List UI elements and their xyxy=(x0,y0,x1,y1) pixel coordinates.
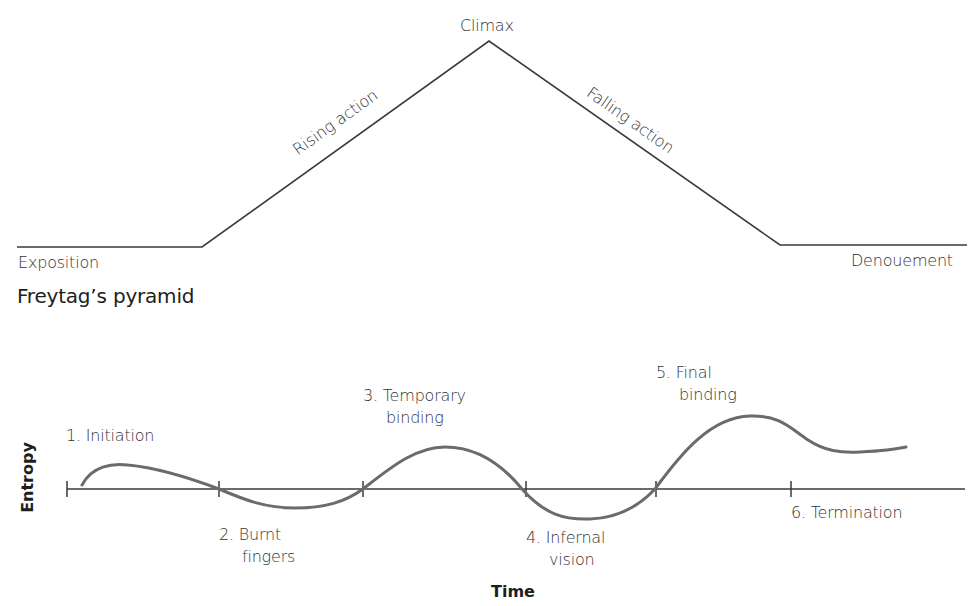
stage-5-line2: binding xyxy=(656,384,737,406)
stage-2-label: 2. Burnt fingers xyxy=(219,524,295,568)
stage-3-line2: binding xyxy=(363,407,466,429)
stage-3-line1: 3. Temporary xyxy=(363,385,466,407)
stage-6-text: 6. Termination xyxy=(791,503,902,522)
label-denouement: Denouement xyxy=(851,251,953,270)
entropy-curve xyxy=(82,416,906,519)
label-exposition: Exposition xyxy=(18,253,99,272)
pyramid-title: Freytag’s pyramid xyxy=(17,284,194,308)
stage-4-line1: 4. Infernal xyxy=(526,527,605,549)
stage-4-label: 4. Infernal vision xyxy=(526,527,605,571)
stage-3-label: 3. Temporary binding xyxy=(363,385,466,429)
stage-1-label: 1. Initiation xyxy=(66,425,154,447)
stage-6-label: 6. Termination xyxy=(791,502,902,524)
stage-2-line2: fingers xyxy=(219,546,295,568)
stage-5-line1: 5. Final xyxy=(656,362,737,384)
entropy-axis-label: Entropy xyxy=(18,442,37,513)
time-axis-label: Time xyxy=(491,582,535,601)
stage-4-line2: vision xyxy=(526,549,605,571)
stage-1-text: 1. Initiation xyxy=(66,426,154,445)
label-climax: Climax xyxy=(460,16,514,35)
stage-2-line1: 2. Burnt xyxy=(219,524,295,546)
pyramid-line xyxy=(17,41,967,247)
stage-5-label: 5. Final binding xyxy=(656,362,737,406)
